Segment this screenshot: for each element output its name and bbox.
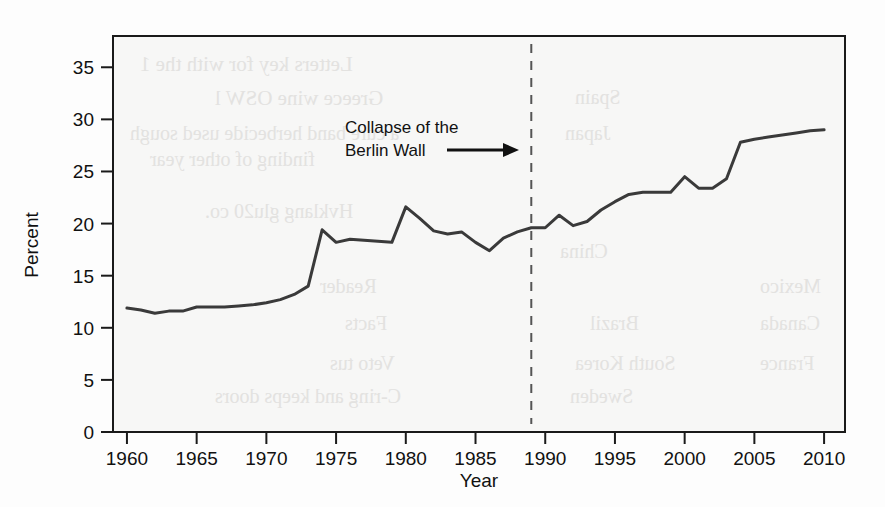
y-axis-tick-label: 25 xyxy=(73,161,94,182)
x-axis-tick-label: 1985 xyxy=(454,448,496,469)
annotation-line-1: Collapse of the xyxy=(345,118,458,137)
y-axis-tick-label: 15 xyxy=(73,266,94,287)
x-axis-tick-label: 1980 xyxy=(385,448,427,469)
x-axis-tick-label: 1990 xyxy=(524,448,566,469)
y-axis-tick-label: 20 xyxy=(73,214,94,235)
y-axis: 05101520253035 xyxy=(73,57,113,443)
x-axis-tick-label: 2000 xyxy=(664,448,706,469)
x-axis-tick-label: 1970 xyxy=(245,448,287,469)
plot-frame xyxy=(113,36,845,432)
x-axis-tick-label: 1975 xyxy=(315,448,357,469)
y-axis-tick-label: 0 xyxy=(83,422,94,443)
x-axis: 1960196519701975198019851990199520002005… xyxy=(106,432,845,469)
y-axis-tick-label: 35 xyxy=(73,57,94,78)
y-axis-tick-label: 10 xyxy=(73,318,94,339)
x-axis-tick-label: 2005 xyxy=(733,448,775,469)
y-axis-title: Percent xyxy=(21,212,42,278)
figure-container: Letters key for with the 1 Greece wine O… xyxy=(0,0,885,507)
line-chart: 05101520253035 1960196519701975198019851… xyxy=(0,0,885,507)
x-axis-tick-label: 1995 xyxy=(594,448,636,469)
data-series-line xyxy=(127,130,824,313)
annotation-line-2: Berlin Wall xyxy=(345,141,426,160)
x-axis-tick-label: 1965 xyxy=(176,448,218,469)
x-axis-tick-label: 1960 xyxy=(106,448,148,469)
y-axis-tick-label: 5 xyxy=(83,370,94,391)
y-axis-tick-label: 30 xyxy=(73,109,94,130)
x-axis-title: Year xyxy=(460,470,499,491)
x-axis-tick-label: 2010 xyxy=(803,448,845,469)
annotation-arrow-icon xyxy=(447,143,519,157)
